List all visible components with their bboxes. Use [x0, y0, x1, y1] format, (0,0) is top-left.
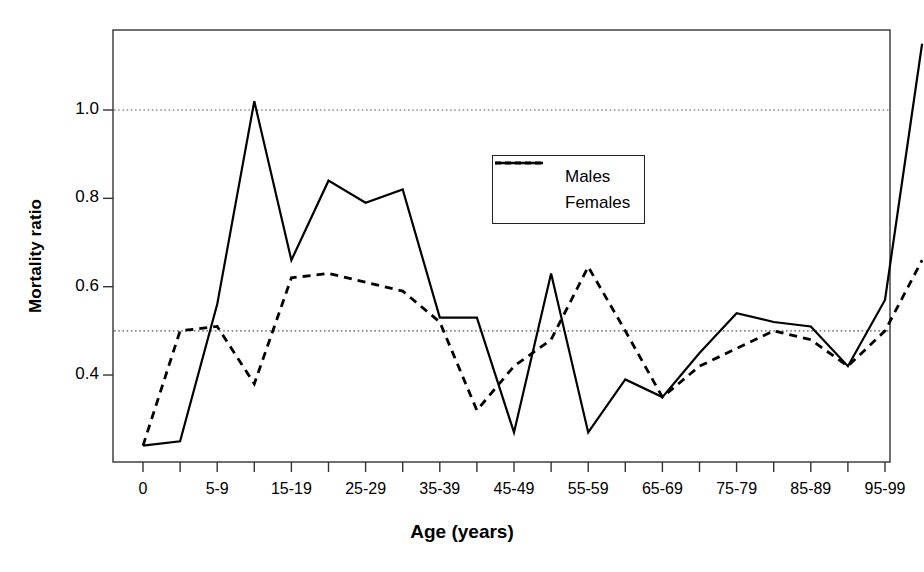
x-tick-label: 15-19	[271, 480, 312, 498]
legend: MalesFemales	[492, 155, 645, 224]
y-tick-label: 1.0	[39, 99, 99, 119]
x-tick-label: 55-59	[568, 480, 609, 498]
y-tick-label: 0.4	[39, 364, 99, 384]
x-tick-label: 45-49	[494, 480, 535, 498]
legend-label: Males	[565, 168, 610, 185]
y-tick-label: 0.6	[39, 276, 99, 296]
x-tick-label: 65-69	[642, 480, 683, 498]
series-line-males	[143, 44, 922, 446]
x-tick-label: 95-99	[865, 480, 906, 498]
x-tick-label: 5-9	[206, 480, 229, 498]
legend-item-females: Females	[503, 189, 630, 215]
x-tick-label: 85-89	[790, 480, 831, 498]
x-tick-label: 35-39	[419, 480, 460, 498]
solid-line-icon	[503, 169, 555, 183]
chart-figure: Mortality ratio Age (years) 0.40.60.81.0…	[0, 0, 924, 572]
x-tick-label: 75-79	[716, 480, 757, 498]
x-tick-label: 25-29	[345, 480, 386, 498]
legend-label: Females	[565, 194, 630, 211]
dashed-line-icon	[503, 195, 555, 209]
y-tick-label: 0.8	[39, 187, 99, 207]
series-line-females	[143, 260, 922, 446]
x-tick-label: 0	[139, 480, 148, 498]
